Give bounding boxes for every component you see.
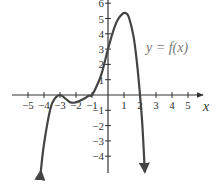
x-tick-label: 4 bbox=[169, 99, 175, 111]
y-tick-label: 4 bbox=[99, 28, 105, 40]
function-label: y = f(x) bbox=[144, 40, 188, 56]
x-tick-label: 3 bbox=[153, 99, 159, 111]
function-curve bbox=[41, 13, 145, 172]
x-tick-label: −3 bbox=[54, 99, 66, 111]
y-tick-label: 5 bbox=[99, 13, 105, 25]
y-tick-label: −2 bbox=[92, 120, 104, 132]
y-tick-label: 6 bbox=[99, 0, 105, 9]
x-tick-label: 5 bbox=[185, 99, 191, 111]
x-axis-label: x bbox=[202, 99, 210, 114]
function-graph: −5−4−3−2−112345 −4−3−2−1123456 x y = f(x… bbox=[0, 0, 224, 188]
y-tick-label: 3 bbox=[99, 43, 105, 55]
x-tick-label: 1 bbox=[121, 99, 127, 111]
y-tick-label: −4 bbox=[92, 150, 104, 162]
y-tick-label: −3 bbox=[92, 135, 104, 147]
x-tick-label: −4 bbox=[38, 99, 50, 111]
x-tick-label: −5 bbox=[22, 99, 34, 111]
y-tick-label: −1 bbox=[92, 104, 104, 116]
